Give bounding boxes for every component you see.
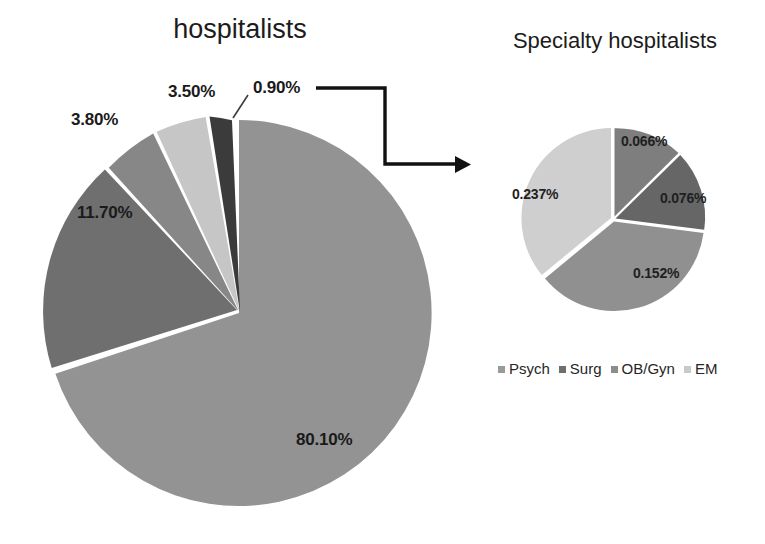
main-pie-group [43,117,432,506]
legend-item-surg[interactable]: Surg [559,360,602,377]
specialty-pie-label-0-076: 0.076% [660,190,706,206]
specialty-pie-label-0-152: 0.152% [633,265,679,281]
legend-label-obgyn: OB/Gyn [622,360,675,377]
specialty-legend: Psych Surg OB/Gyn EM [498,360,765,377]
specialty-pie-label-0-237: 0.237% [512,186,558,202]
legend-label-surg: Surg [570,360,602,377]
main-pie-label-80-10: 80.10% [296,430,352,450]
main-pie-label-3-50: 3.50% [168,82,215,102]
specialty-pie-group [521,128,705,311]
legend-swatch-icon-obgyn [611,366,618,373]
legend-item-em[interactable]: EM [684,360,718,377]
chart-canvas: hospitalists Specialty hospitalists [0,0,765,544]
slice-leader-line [233,95,248,118]
specialty-pie-label-0-066: 0.066% [621,133,667,149]
legend-item-obgyn[interactable]: OB/Gyn [611,360,675,377]
legend-label-em: EM [695,360,718,377]
legend-label-psych: Psych [509,360,550,377]
main-pie-label-0-90: 0.90% [253,78,300,98]
legend-item-psych[interactable]: Psych [498,360,550,377]
callout-arrow-head [455,156,471,173]
main-pie-label-11-70: 11.70% [77,203,133,223]
main-pie-label-3-80: 3.80% [71,110,118,130]
legend-swatch-icon-surg [559,366,566,373]
legend-swatch-icon-psych [498,366,505,373]
legend-swatch-icon-em [684,366,691,373]
